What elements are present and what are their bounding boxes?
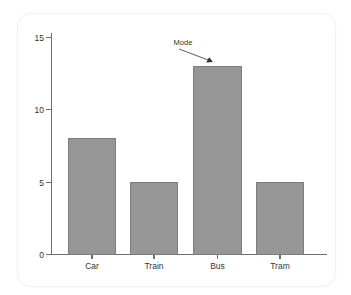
bar-train <box>131 183 178 255</box>
bar-car <box>69 139 116 255</box>
bar-chart-plot: 15 10 5 0 Car Train Bus Tram Mode <box>0 0 351 295</box>
chart-screenshot: 15 10 5 0 Car Train Bus Tram Mode <box>0 0 351 295</box>
y-tick-label-15: 15 <box>35 33 45 43</box>
y-tick-label-5: 5 <box>39 178 44 188</box>
annotation-mode-label: Mode <box>174 38 193 47</box>
bar-bus <box>194 67 242 255</box>
annotation-mode-leader-line <box>179 49 210 61</box>
y-tick-label-0: 0 <box>39 250 44 260</box>
x-tick-label-car: Car <box>85 261 99 271</box>
x-tick-label-bus: Bus <box>210 261 225 271</box>
x-tick-label-train: Train <box>144 261 163 271</box>
bar-tram <box>257 183 304 255</box>
y-tick-label-10: 10 <box>35 105 45 115</box>
x-tick-label-tram: Tram <box>270 261 290 271</box>
